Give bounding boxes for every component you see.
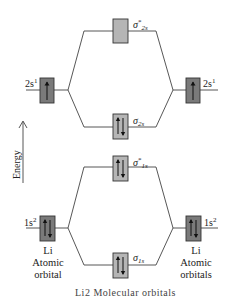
label-main: 1s [24,217,33,228]
label-right-1s: 1s2 [204,217,216,228]
label-sub: 1s [138,257,144,265]
right-atom-label-line: orbitals [172,269,220,281]
label-main: 2s [25,78,34,89]
right-atom-label: Li Atomic orbitals [172,245,220,281]
right-atom-label-line: Atomic [172,257,220,269]
label-sigma-1s: σ1s [133,253,144,265]
left-atom-label-line: Li [27,245,69,257]
right-atom-label-line: Li [172,245,220,257]
energy-axis-label: Energy [11,150,22,179]
label-left-1s: 1s2 [24,217,36,228]
label-main: 1s [204,217,213,228]
orbital-box-sigma-star-2s [113,19,128,43]
orbital-box-sigma-star-1s [113,156,128,181]
diagram-caption: Li2 Molecular orbitals [75,287,176,298]
label-right-2s: 2s1 [203,78,215,89]
label-main: 2s [203,78,212,89]
orbital-box-sigma-1s [113,253,128,278]
label-sup: 1 [34,77,38,85]
label-left-2s: 2s1 [25,78,37,89]
orbital-box-right-1s [186,216,201,241]
label-sub: 2s [141,24,147,32]
left-atom-label-line: Atomic [27,257,69,269]
label-sup: 2 [33,216,37,224]
orbital-box-left-2s [40,78,54,103]
label-sigma-2s: σ2s [133,116,144,128]
left-atom-label-line: orbital [27,269,69,281]
label-sup: 1 [212,77,216,85]
label-sub: 1s [141,162,147,170]
orbital-box-sigma-2s [113,114,128,139]
label-sup: 2 [213,216,217,224]
label-sub: 2s [138,120,144,128]
orbital-box-left-1s [40,216,55,241]
left-atom-label: Li Atomic orbital [27,245,69,281]
label-sigma-star-2s: σ*2s [133,19,148,32]
orbital-box-right-2s [186,78,200,103]
label-sigma-star-1s: σ*1s [133,157,148,170]
